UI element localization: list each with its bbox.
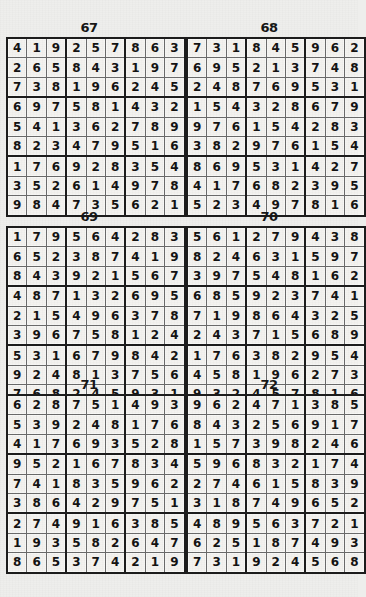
sudoku-cell[interactable]: 4 (105, 553, 125, 573)
sudoku-cell[interactable]: 9 (145, 395, 164, 415)
sudoku-cell[interactable]: 1 (145, 553, 164, 573)
sudoku-cell[interactable]: 4 (226, 247, 246, 266)
sudoku-cell[interactable]: 5 (187, 454, 207, 474)
sudoku-cell[interactable]: 6 (86, 454, 105, 474)
sudoku-cell[interactable]: 7 (226, 434, 246, 454)
sudoku-cell[interactable]: 4 (27, 266, 46, 286)
sudoku-cell[interactable]: 6 (105, 306, 125, 325)
sudoku-cell[interactable]: 4 (145, 533, 164, 552)
sudoku-cell[interactable]: 6 (46, 156, 66, 176)
sudoku-cell[interactable]: 2 (46, 454, 66, 474)
sudoku-cell[interactable]: 8 (145, 513, 164, 533)
sudoku-cell[interactable]: 3 (325, 77, 344, 97)
sudoku-cell[interactable]: 6 (285, 136, 305, 156)
sudoku-cell[interactable]: 2 (246, 415, 266, 434)
sudoku-cell[interactable]: 7 (266, 227, 285, 247)
sudoku-cell[interactable]: 3 (246, 345, 266, 365)
sudoku-cell[interactable]: 5 (125, 136, 145, 156)
sudoku-cell[interactable]: 1 (187, 97, 207, 117)
sudoku-cell[interactable]: 8 (207, 286, 226, 306)
sudoku-cell[interactable]: 7 (46, 434, 66, 454)
sudoku-cell[interactable]: 7 (165, 533, 185, 552)
sudoku-cell[interactable]: 1 (7, 156, 27, 176)
sudoku-cell[interactable]: 2 (145, 434, 164, 454)
sudoku-cell[interactable]: 3 (305, 176, 325, 195)
sudoku-cell[interactable]: 1 (125, 325, 145, 345)
sudoku-cell[interactable]: 5 (46, 306, 66, 325)
sudoku-cell[interactable]: 3 (125, 513, 145, 533)
sudoku-cell[interactable]: 9 (305, 38, 325, 58)
sudoku-cell[interactable]: 8 (246, 454, 266, 474)
sudoku-cell[interactable]: 5 (305, 553, 325, 573)
sudoku-cell[interactable]: 9 (226, 306, 246, 325)
sudoku-cell[interactable]: 3 (305, 395, 325, 415)
sudoku-cell[interactable]: 8 (187, 247, 207, 266)
sudoku-cell[interactable]: 1 (207, 306, 226, 325)
sudoku-cell[interactable]: 9 (187, 395, 207, 415)
sudoku-cell[interactable]: 5 (285, 474, 305, 493)
sudoku-cell[interactable]: 9 (125, 176, 145, 195)
sudoku-cell[interactable]: 8 (266, 345, 285, 365)
sudoku-cell[interactable]: 2 (266, 553, 285, 573)
sudoku-cell[interactable]: 5 (345, 306, 365, 325)
sudoku-cell[interactable]: 4 (345, 454, 365, 474)
sudoku-cell[interactable]: 7 (246, 77, 266, 97)
sudoku-grid-68[interactable]: 7318459626952137482487695311543286799761… (186, 37, 366, 217)
sudoku-cell[interactable]: 2 (226, 136, 246, 156)
sudoku-cell[interactable]: 1 (325, 415, 344, 434)
sudoku-cell[interactable]: 2 (7, 58, 27, 77)
sudoku-cell[interactable]: 4 (125, 395, 145, 415)
sudoku-cell[interactable]: 3 (27, 77, 46, 97)
sudoku-cell[interactable]: 1 (285, 156, 305, 176)
sudoku-cell[interactable]: 8 (246, 38, 266, 58)
sudoku-grid-72[interactable]: 9624713858432569171573982465968321742746… (186, 394, 366, 574)
sudoku-cell[interactable]: 5 (66, 97, 86, 117)
sudoku-cell[interactable]: 5 (86, 395, 105, 415)
sudoku-cell[interactable]: 3 (125, 156, 145, 176)
sudoku-cell[interactable]: 6 (7, 97, 27, 117)
sudoku-cell[interactable]: 8 (125, 38, 145, 58)
sudoku-cell[interactable]: 7 (226, 176, 246, 195)
sudoku-cell[interactable]: 5 (46, 553, 66, 573)
sudoku-cell[interactable]: 4 (266, 38, 285, 58)
sudoku-cell[interactable]: 6 (325, 38, 344, 58)
sudoku-cell[interactable]: 3 (165, 38, 185, 58)
sudoku-cell[interactable]: 5 (325, 493, 344, 513)
sudoku-cell[interactable]: 3 (226, 325, 246, 345)
sudoku-cell[interactable]: 8 (207, 513, 226, 533)
sudoku-cell[interactable]: 4 (246, 395, 266, 415)
sudoku-cell[interactable]: 9 (345, 325, 365, 345)
sudoku-cell[interactable]: 6 (226, 454, 246, 474)
sudoku-cell[interactable]: 2 (285, 345, 305, 365)
sudoku-cell[interactable]: 9 (207, 454, 226, 474)
sudoku-cell[interactable]: 4 (27, 474, 46, 493)
sudoku-cell[interactable]: 7 (27, 227, 46, 247)
sudoku-cell[interactable]: 3 (345, 533, 365, 552)
sudoku-cell[interactable]: 5 (226, 58, 246, 77)
sudoku-cell[interactable]: 3 (66, 117, 86, 136)
sudoku-cell[interactable]: 2 (165, 97, 185, 117)
sudoku-cell[interactable]: 5 (345, 395, 365, 415)
sudoku-cell[interactable]: 2 (207, 533, 226, 552)
sudoku-cell[interactable]: 1 (125, 58, 145, 77)
sudoku-cell[interactable]: 8 (125, 454, 145, 474)
sudoku-cell[interactable]: 5 (86, 325, 105, 345)
sudoku-cell[interactable]: 1 (145, 247, 164, 266)
sudoku-cell[interactable]: 7 (285, 533, 305, 552)
sudoku-cell[interactable]: 8 (46, 77, 66, 97)
sudoku-cell[interactable]: 9 (345, 474, 365, 493)
sudoku-cell[interactable]: 2 (165, 474, 185, 493)
sudoku-cell[interactable]: 9 (66, 156, 86, 176)
sudoku-cell[interactable]: 4 (86, 58, 105, 77)
sudoku-cell[interactable]: 7 (145, 176, 164, 195)
sudoku-cell[interactable]: 2 (246, 227, 266, 247)
sudoku-cell[interactable]: 4 (66, 493, 86, 513)
sudoku-cell[interactable]: 1 (305, 266, 325, 286)
sudoku-cell[interactable]: 9 (305, 415, 325, 434)
sudoku-cell[interactable]: 7 (105, 247, 125, 266)
sudoku-cell[interactable]: 6 (145, 474, 164, 493)
sudoku-cell[interactable]: 9 (165, 117, 185, 136)
sudoku-cell[interactable]: 3 (246, 434, 266, 454)
sudoku-cell[interactable]: 1 (46, 474, 66, 493)
sudoku-cell[interactable]: 9 (27, 533, 46, 552)
